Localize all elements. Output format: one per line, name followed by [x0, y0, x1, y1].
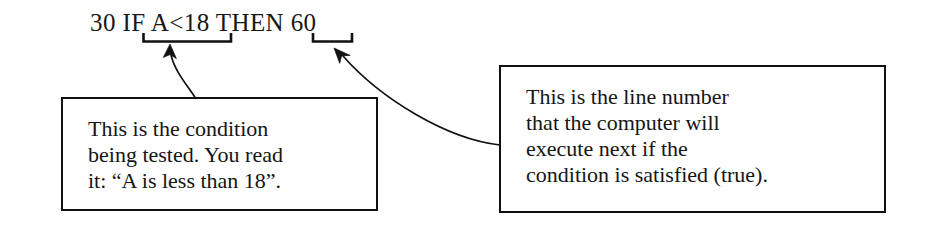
callout-box-line-number: This is the line number that the compute… [499, 65, 886, 213]
target-line-brace-icon [313, 33, 352, 42]
arrowhead-line-number [334, 48, 350, 63]
callout-line-number-text: This is the line number that the compute… [526, 84, 768, 188]
callout-condition-text: This is the condition being tested. You … [88, 116, 283, 194]
callout-box-condition: This is the condition being tested. You … [61, 97, 378, 211]
arrowhead-condition [163, 44, 176, 59]
code-token-target-line: 60 [291, 9, 317, 36]
code-token-if: IF [122, 9, 145, 36]
code-token-condition: A<18 [151, 9, 210, 36]
leader-arrow-condition [163, 44, 196, 99]
code-token-then: THEN [216, 9, 284, 36]
code-token-line-number: 30 [90, 9, 116, 36]
figure-canvas: 30 IF A<18 THEN 60 This is the condition… [0, 0, 929, 245]
code-space-4 [284, 9, 291, 36]
code-line: 30 IF A<18 THEN 60 [90, 8, 316, 38]
